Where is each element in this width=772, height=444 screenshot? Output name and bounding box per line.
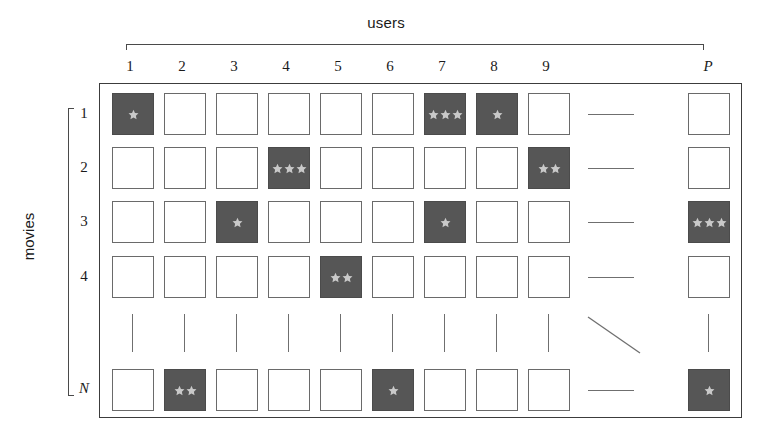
row-label-n: N <box>74 380 94 397</box>
star-icon <box>186 385 197 396</box>
matrix-cell-empty[interactable] <box>424 147 466 189</box>
column-label-4: 4 <box>271 58 301 75</box>
matrix-cell-empty[interactable] <box>476 256 518 298</box>
matrix-cell-empty[interactable] <box>112 201 154 243</box>
matrix-cell-rated[interactable] <box>372 369 414 411</box>
matrix-cell-empty[interactable] <box>688 147 730 189</box>
matrix-cell-empty[interactable] <box>268 369 310 411</box>
rating-stars <box>689 202 729 242</box>
column-label-6: 6 <box>375 58 405 75</box>
matrix-cell-empty[interactable] <box>424 256 466 298</box>
ellipsis-vertical-dash <box>184 314 185 352</box>
star-icon <box>284 163 295 174</box>
ratings-matrix-figure: users movies 1 2 3 4 5 6 7 8 9 P 1 2 3 4… <box>0 0 772 444</box>
rating-stars <box>425 94 465 134</box>
matrix-cell-rated[interactable] <box>476 93 518 135</box>
column-label-2: 2 <box>167 58 197 75</box>
ellipsis-vertical-dash <box>496 314 497 352</box>
matrix-cell-empty[interactable] <box>372 256 414 298</box>
matrix-cell-rated[interactable] <box>112 93 154 135</box>
matrix-cell-empty[interactable] <box>164 201 206 243</box>
matrix-cell-rated[interactable] <box>424 201 466 243</box>
star-icon <box>128 109 139 120</box>
star-icon <box>692 217 703 228</box>
matrix-cell-empty[interactable] <box>268 201 310 243</box>
matrix-cell-empty[interactable] <box>164 93 206 135</box>
matrix-cell-rated[interactable] <box>268 147 310 189</box>
ellipsis-horizontal-dash <box>588 168 634 169</box>
row-label-1: 1 <box>74 105 94 122</box>
y-axis-rule <box>68 108 69 396</box>
column-label-7: 7 <box>427 58 457 75</box>
matrix-cell-empty[interactable] <box>688 256 730 298</box>
matrix-cell-empty[interactable] <box>216 256 258 298</box>
ellipsis-vertical-dash <box>444 314 445 352</box>
matrix-cell-empty[interactable] <box>216 93 258 135</box>
matrix-cell-empty[interactable] <box>372 201 414 243</box>
rating-stars <box>269 148 309 188</box>
column-label-5: 5 <box>323 58 353 75</box>
matrix-cell-empty[interactable] <box>372 93 414 135</box>
star-icon <box>704 217 715 228</box>
matrix-cell-empty[interactable] <box>268 93 310 135</box>
star-icon <box>452 109 463 120</box>
matrix-cell-rated[interactable] <box>528 147 570 189</box>
matrix-cell-rated[interactable] <box>216 201 258 243</box>
matrix-cell-empty[interactable] <box>424 369 466 411</box>
star-icon <box>272 163 283 174</box>
rating-stars <box>113 94 153 134</box>
matrix-cell-rated[interactable] <box>688 369 730 411</box>
matrix-cell-empty[interactable] <box>112 256 154 298</box>
matrix-cell-empty[interactable] <box>528 256 570 298</box>
rating-stars <box>425 202 465 242</box>
star-icon <box>440 109 451 120</box>
matrix-cell-empty[interactable] <box>372 147 414 189</box>
column-label-1: 1 <box>115 58 145 75</box>
matrix-cell-empty[interactable] <box>476 201 518 243</box>
matrix-cell-rated[interactable] <box>688 201 730 243</box>
rating-stars <box>217 202 257 242</box>
matrix-cell-empty[interactable] <box>320 201 362 243</box>
matrix-cell-rated[interactable] <box>424 93 466 135</box>
ellipsis-vertical-dash <box>236 314 237 352</box>
ellipsis-horizontal-dash <box>588 390 634 391</box>
rating-stars <box>373 370 413 410</box>
star-icon <box>428 109 439 120</box>
y-axis-label: movies <box>20 167 37 307</box>
matrix-cell-empty[interactable] <box>164 147 206 189</box>
matrix-cell-empty[interactable] <box>528 201 570 243</box>
star-icon <box>492 109 503 120</box>
ellipsis-diagonal <box>586 314 642 354</box>
row-label-3: 3 <box>74 213 94 230</box>
star-icon <box>232 217 243 228</box>
matrix-cell-empty[interactable] <box>164 256 206 298</box>
column-label-p: P <box>693 58 723 75</box>
star-icon <box>440 217 451 228</box>
star-icon <box>174 385 185 396</box>
matrix-cell-rated[interactable] <box>320 256 362 298</box>
ellipsis-vertical-dash <box>548 314 549 352</box>
star-icon <box>704 385 715 396</box>
matrix-cell-empty[interactable] <box>528 369 570 411</box>
matrix-cell-empty[interactable] <box>476 147 518 189</box>
star-icon <box>330 272 341 283</box>
ellipsis-horizontal-dash <box>588 114 634 115</box>
matrix-cell-empty[interactable] <box>688 93 730 135</box>
matrix-cell-empty[interactable] <box>216 147 258 189</box>
matrix-cell-empty[interactable] <box>320 147 362 189</box>
matrix-cell-empty[interactable] <box>112 147 154 189</box>
matrix-cell-empty[interactable] <box>528 93 570 135</box>
ellipsis-vertical-dash <box>340 314 341 352</box>
ellipsis-vertical-dash <box>288 314 289 352</box>
column-label-9: 9 <box>531 58 561 75</box>
x-axis-rule <box>126 44 704 45</box>
matrix-cell-rated[interactable] <box>164 369 206 411</box>
star-icon <box>388 385 399 396</box>
matrix-cell-empty[interactable] <box>268 256 310 298</box>
matrix-cell-empty[interactable] <box>320 369 362 411</box>
star-icon <box>550 163 561 174</box>
matrix-cell-empty[interactable] <box>476 369 518 411</box>
matrix-cell-empty[interactable] <box>320 93 362 135</box>
matrix-cell-empty[interactable] <box>216 369 258 411</box>
matrix-cell-empty[interactable] <box>112 369 154 411</box>
